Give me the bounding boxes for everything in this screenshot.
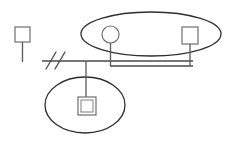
kinship-diagram-svg <box>0 0 233 144</box>
nested-square-node-inner <box>81 100 93 112</box>
male-node-right <box>182 27 198 44</box>
female-node <box>102 26 119 43</box>
male-node-left <box>15 27 30 42</box>
kinship-diagram-canvas <box>0 0 233 144</box>
